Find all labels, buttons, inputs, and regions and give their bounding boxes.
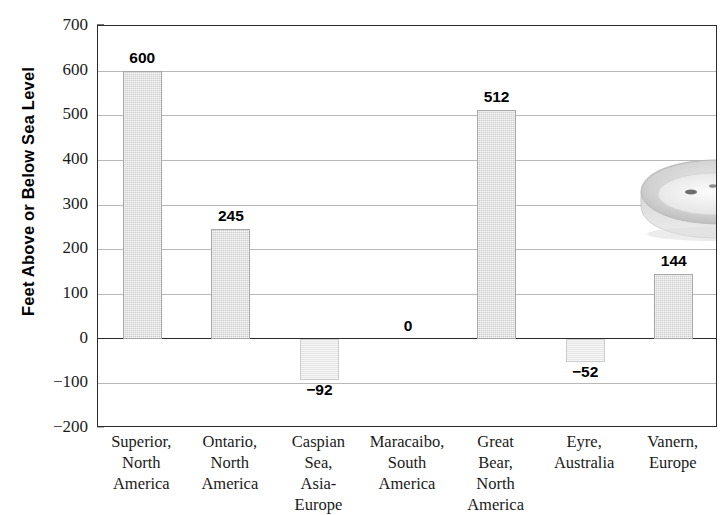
bar <box>123 71 162 339</box>
category-label-line: Europe <box>628 452 717 473</box>
category-label-line: North <box>97 452 186 473</box>
zero-line <box>98 338 716 340</box>
category-label-line: Sea, <box>274 452 363 473</box>
gridline <box>98 205 716 206</box>
category-label-line: Bear, <box>451 452 540 473</box>
category-label-line: North <box>186 452 275 473</box>
plot-area: 600245−920512−52144 <box>97 25 717 427</box>
bar-value-label: 512 <box>484 88 510 106</box>
y-axis-tick-label: −200 <box>8 417 88 437</box>
category-label-line: Europe <box>274 494 363 515</box>
y-axis-tick-label: 400 <box>8 149 88 169</box>
x-axis-category-label: Maracaibo,SouthAmerica <box>363 431 452 494</box>
category-label-line: Ontario, <box>186 431 275 452</box>
lake-illustration <box>635 148 717 243</box>
x-axis-category-labels: Superior,NorthAmericaOntario,NorthAmeric… <box>97 431 717 515</box>
bar-value-label: 245 <box>218 207 244 225</box>
bar-value-label: −92 <box>306 381 332 399</box>
y-axis-tick-label: 500 <box>8 104 88 124</box>
x-axis-category-label: Superior,NorthAmerica <box>97 431 186 494</box>
category-label-line: Australia <box>540 452 629 473</box>
x-axis-category-label: Vanern,Europe <box>628 431 717 473</box>
category-label-line: North <box>451 473 540 494</box>
category-label-line: America <box>451 494 540 515</box>
gridline <box>98 160 716 161</box>
y-axis-tick-label: 0 <box>8 328 88 348</box>
bar <box>566 339 605 362</box>
x-axis-category-label: Eyre,Australia <box>540 431 629 473</box>
bar <box>300 339 339 380</box>
bar-value-label: 0 <box>404 317 413 335</box>
category-label-line: Eyre, <box>540 431 629 452</box>
y-axis-tick-label: 700 <box>8 15 88 35</box>
category-label-line: America <box>363 473 452 494</box>
x-axis-category-label: Ontario,NorthAmerica <box>186 431 275 494</box>
gridline <box>98 294 716 295</box>
gridline <box>98 383 716 384</box>
bar <box>477 110 516 339</box>
category-label-line: Vanern, <box>628 431 717 452</box>
bar <box>211 229 250 338</box>
y-axis-tick-label: 600 <box>8 60 88 80</box>
bar-chart: Feet Above or Below Sea Level 7006005004… <box>0 0 723 515</box>
y-axis-tick-label: 200 <box>8 238 88 258</box>
category-label-line: Maracaibo, <box>363 431 452 452</box>
x-axis-category-label: GreatBear,NorthAmerica <box>451 431 540 515</box>
bar-value-label: 600 <box>129 49 155 67</box>
y-axis-tick-label: 100 <box>8 283 88 303</box>
y-axis-tick-label: −100 <box>8 372 88 392</box>
bar-value-label: 144 <box>661 252 687 270</box>
gridline <box>98 249 716 250</box>
category-label-line: Superior, <box>97 431 186 452</box>
bar <box>654 274 693 338</box>
category-label-line: Asia- <box>274 473 363 494</box>
category-label-line: America <box>97 473 186 494</box>
gridline <box>98 71 716 72</box>
gridline <box>98 115 716 116</box>
category-label-line: South <box>363 452 452 473</box>
bar-value-label: −52 <box>572 363 598 381</box>
x-axis-category-label: CaspianSea,Asia-Europe <box>274 431 363 515</box>
category-label-line: Great <box>451 431 540 452</box>
category-label-line: America <box>186 473 275 494</box>
category-label-line: Caspian <box>274 431 363 452</box>
y-axis-tick-label: 300 <box>8 194 88 214</box>
